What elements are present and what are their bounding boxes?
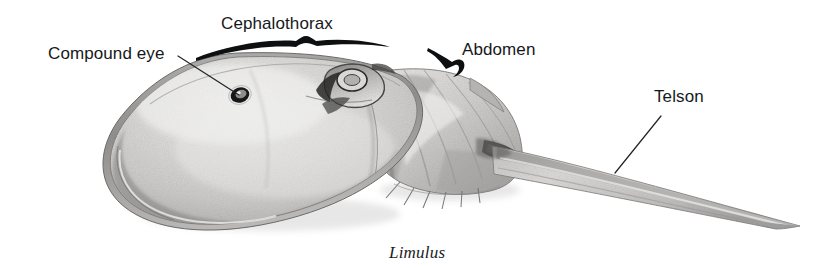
limulus-anatomy-figure: Compound eye Cephalothorax Abdomen Telso… bbox=[0, 0, 833, 268]
label-cephalothorax: Cephalothorax bbox=[221, 15, 333, 32]
figure-caption: Limulus bbox=[389, 243, 445, 263]
cephalothorax-brace bbox=[196, 36, 390, 61]
telson-leader-line bbox=[615, 116, 661, 173]
annotation-layer bbox=[0, 0, 833, 268]
compound-eye-leader-line bbox=[178, 56, 239, 95]
label-compound-eye: Compound eye bbox=[48, 45, 165, 62]
abdomen-brace bbox=[427, 48, 464, 77]
label-abdomen: Abdomen bbox=[462, 41, 535, 58]
label-telson: Telson bbox=[654, 88, 704, 105]
